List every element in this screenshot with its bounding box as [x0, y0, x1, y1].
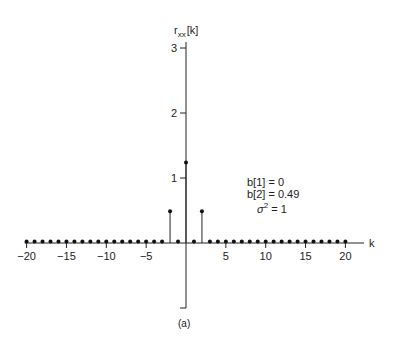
x-tick-label: 15	[299, 250, 311, 262]
stem-marker	[41, 240, 45, 244]
x-tick-label: −20	[17, 250, 36, 262]
stem-marker	[176, 240, 180, 244]
x-tick-label: 10	[260, 250, 272, 262]
stem-marker	[112, 240, 116, 244]
stem-marker	[160, 240, 164, 244]
stem-marker	[136, 240, 140, 244]
stem-marker	[33, 240, 37, 244]
stem-marker	[208, 240, 212, 244]
x-tick-label: −10	[97, 250, 116, 262]
stem-marker	[232, 240, 236, 244]
y-tick-label: 1	[171, 172, 177, 184]
stem-marker	[240, 240, 244, 244]
stem-marker	[327, 240, 331, 244]
stem-marker	[25, 240, 29, 244]
stem-marker	[144, 240, 148, 244]
stem-marker	[335, 240, 339, 244]
x-tick-label: 20	[339, 250, 351, 262]
stem-marker	[128, 240, 132, 244]
stem-marker	[280, 240, 284, 244]
stem-marker	[80, 240, 84, 244]
stem-marker	[343, 240, 347, 244]
stem-marker	[88, 240, 92, 244]
x-axis-label: k	[369, 237, 375, 249]
stem-marker	[272, 240, 276, 244]
stem-marker	[120, 240, 124, 244]
stem-marker	[256, 240, 260, 244]
stem-marker	[168, 209, 172, 213]
stem-marker	[72, 240, 76, 244]
stem-marker	[264, 240, 268, 244]
axes	[25, 42, 364, 308]
stem-marker	[312, 240, 316, 244]
stem-marker	[319, 240, 323, 244]
y-axis-label: rxx[k]	[174, 24, 198, 39]
x-tick-label: −5	[140, 250, 153, 262]
stem-marker	[224, 240, 228, 244]
x-tick-label: 5	[223, 250, 229, 262]
stem-marker	[64, 240, 68, 244]
stem-plot: 123−20−15−10−55101520 rxx[k] k (a)	[0, 0, 397, 346]
stem-marker	[56, 240, 60, 244]
ticks: 123−20−15−10−55101520	[17, 42, 351, 262]
annotation-b1: b[1] = 0	[247, 176, 299, 188]
stem-marker	[184, 160, 188, 164]
stem-marker	[216, 240, 220, 244]
annotation-sigma: σ2 = 1	[247, 200, 299, 215]
parameter-annotation: b[1] = 0 b[2] = 0.49 σ2 = 1	[247, 176, 299, 215]
stem-marker	[96, 240, 100, 244]
y-tick-label: 2	[171, 107, 177, 119]
stem-marker	[288, 240, 292, 244]
x-tick-label: −15	[57, 250, 76, 262]
stem-marker	[104, 240, 108, 244]
stem-marker	[304, 240, 308, 244]
stem-marker	[49, 240, 53, 244]
stem-marker	[152, 240, 156, 244]
stem-marker	[248, 240, 252, 244]
stem-marker	[192, 240, 196, 244]
stem-marker	[200, 209, 204, 213]
annotation-b2: b[2] = 0.49	[247, 188, 299, 200]
stem-marker	[296, 240, 300, 244]
y-tick-label: 3	[171, 42, 177, 54]
figure-caption: (a)	[178, 318, 190, 329]
